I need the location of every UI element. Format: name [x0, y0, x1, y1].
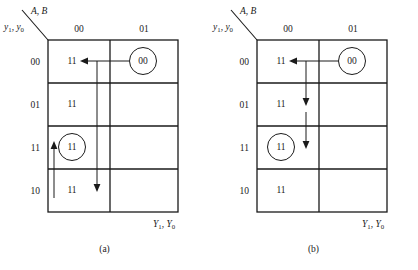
row-axis-var-y0: y	[16, 22, 20, 32]
vertical-arrow-up-head	[51, 141, 58, 149]
cell-r3c0: 11	[268, 186, 294, 196]
kmap-b-graphics	[209, 0, 418, 270]
output-sub-1: 1	[158, 223, 161, 230]
cell-r3c0: 11	[59, 186, 85, 196]
vertical-arrow-down-head	[94, 184, 101, 192]
row-axis-sub-1: 1	[8, 26, 11, 33]
row-axis-label: y1, y0	[4, 23, 24, 33]
cell-r1c0: 11	[59, 100, 85, 110]
kmap-diagram-a: A, B y1, y0 00 01 00 01 11 10 11 00 11 1…	[0, 0, 209, 270]
cell-r0c0: 11	[59, 57, 85, 67]
output-sub-0: 0	[172, 223, 175, 230]
vertical-arrow-down-2-head	[303, 141, 310, 149]
caption-b: (b)	[209, 244, 418, 254]
row-axis-sub-1: 1	[217, 26, 220, 33]
row-header-10: 10	[14, 186, 40, 196]
column-axis-label: A, B	[31, 7, 47, 17]
column-header-00: 00	[268, 24, 308, 34]
column-header-01: 01	[333, 24, 373, 34]
cell-r2c0: 11	[268, 143, 294, 153]
cell-r0c1: 00	[339, 57, 365, 67]
cell-r1c0: 11	[268, 100, 294, 110]
output-sub-1: 1	[367, 223, 370, 230]
row-axis-label: y1, y0	[213, 23, 233, 33]
cell-r2c0: 11	[59, 143, 85, 153]
row-header-01: 01	[14, 100, 40, 110]
column-axis-label: A, B	[240, 7, 256, 17]
row-header-10: 10	[223, 186, 249, 196]
output-axis-label: Y1, Y0	[153, 220, 175, 230]
cell-r0c1: 00	[130, 57, 156, 67]
cell-r0c0: 11	[268, 57, 294, 67]
kmap-a-graphics	[0, 0, 209, 270]
column-header-01: 01	[124, 24, 164, 34]
output-axis-label: Y1, Y0	[362, 220, 384, 230]
column-header-00: 00	[59, 24, 99, 34]
kmap-diagram-b: A, B y1, y0 00 01 00 01 11 10 11 00 11 1…	[209, 0, 418, 270]
output-var-Y0: Y	[166, 219, 171, 229]
row-header-11: 11	[223, 143, 249, 153]
row-header-01: 01	[223, 100, 249, 110]
row-header-11: 11	[14, 143, 40, 153]
output-var-Y0: Y	[375, 219, 380, 229]
row-axis-var-y0: y	[225, 22, 229, 32]
caption-a: (a)	[0, 244, 209, 254]
row-header-00: 00	[14, 57, 40, 67]
column-axis-var-b: B	[42, 6, 48, 16]
vertical-arrow-down-1-head	[303, 98, 310, 106]
row-header-00: 00	[223, 57, 249, 67]
output-sub-0: 0	[381, 223, 384, 230]
row-axis-sub-0: 0	[21, 26, 24, 33]
row-axis-sub-0: 0	[230, 26, 233, 33]
column-axis-var-b: B	[251, 6, 257, 16]
